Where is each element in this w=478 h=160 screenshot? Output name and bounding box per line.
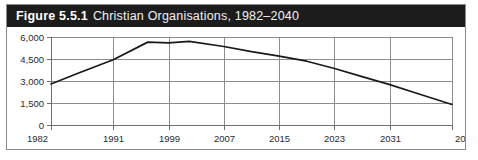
x-tick-label: 2015 [269,133,290,144]
y-tick-label: 4,500 [20,54,44,65]
y-axis-tick-labels: 01,5003,0004,5006,000 [20,32,44,131]
x-tick-label: 1982 [27,133,48,144]
series-line [51,41,452,104]
figure-caption: Christian Organisations, 1982–2040 [93,9,299,23]
y-axis-tick-marks [47,38,51,126]
y-tick-label: 1,500 [20,98,44,109]
figure-title-bar: Figure 5.5.1 Christian Organisations, 19… [7,5,465,27]
figure-number-label: Figure 5.5.1 [16,9,88,23]
horizontal-gridlines [51,38,452,126]
x-tick-label: 2031 [380,133,401,144]
y-tick-label: 0 [39,120,44,131]
x-tick-label: 1991 [103,133,124,144]
figure-container: Figure 5.5.1 Christian Organisations, 19… [6,4,466,150]
line-chart: 01,5003,0004,5006,000 198219911999200720… [7,27,465,150]
x-tick-label: 2007 [214,133,235,144]
y-tick-label: 3,000 [20,76,44,87]
chart-plot-area: 01,5003,0004,5006,000 198219911999200720… [7,27,465,151]
y-tick-label: 6,000 [20,32,44,43]
x-axis-tick-labels: 19821991199920072015202320312040 [27,133,465,144]
data-series-line [51,41,452,104]
x-tick-label: 2040 [455,133,465,144]
x-tick-label: 1999 [159,133,180,144]
x-tick-label: 2023 [324,133,345,144]
